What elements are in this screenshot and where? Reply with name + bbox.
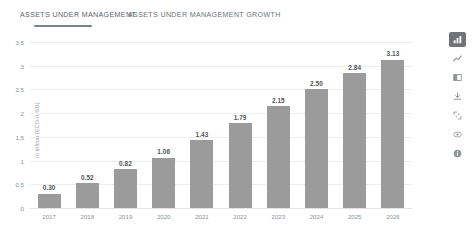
bar-series: 0.3020170.5220180.8220191.0620201.432021… <box>30 42 412 208</box>
bar[interactable] <box>114 169 137 208</box>
y-axis-tick-label: 1 <box>21 157 24 164</box>
y-axis-tick-label: 0.5 <box>15 181 24 188</box>
tab-bar: ASSETS UNDER MANAGEMENT ASSETS UNDER MAN… <box>0 0 474 30</box>
bar[interactable] <box>343 73 366 208</box>
bar-group[interactable]: 1.432021 <box>183 42 221 208</box>
bar-chart-icon[interactable] <box>449 32 466 47</box>
y-axis-tick-label: 3 <box>21 62 24 69</box>
bar-value-label: 1.79 <box>234 114 247 121</box>
y-axis-tick-label: 0 <box>21 205 24 212</box>
bar-group[interactable]: 2.502024 <box>297 42 335 208</box>
bar-value-label: 2.84 <box>348 64 361 71</box>
y-axis-tick-label: 2 <box>21 110 24 117</box>
bar[interactable] <box>76 183 99 208</box>
info-icon[interactable] <box>449 146 466 161</box>
table-icon[interactable] <box>449 70 466 85</box>
tab-assets-under-management[interactable]: ASSETS UNDER MANAGEMENT <box>20 11 136 19</box>
x-axis-tick-label: 2023 <box>272 213 286 220</box>
bar[interactable] <box>305 89 328 208</box>
bar-group[interactable]: 0.522018 <box>68 42 106 208</box>
active-tab-underline <box>34 25 92 27</box>
bar-value-label: 1.06 <box>157 148 170 155</box>
line-chart-icon[interactable] <box>449 51 466 66</box>
bar-value-label: 2.50 <box>310 80 323 87</box>
x-axis-tick-label: 2026 <box>386 213 400 220</box>
chart-container: in trillion (ECD-IUSD) 00.511.522.533.5 … <box>0 30 430 230</box>
bar-value-label: 3.13 <box>387 50 400 57</box>
bar-value-label: 0.30 <box>43 184 56 191</box>
bar-value-label: 0.82 <box>119 160 132 167</box>
bar-group[interactable]: 1.062020 <box>145 42 183 208</box>
x-axis-tick-label: 2025 <box>348 213 362 220</box>
eye-icon[interactable] <box>449 127 466 142</box>
y-axis-tick-label: 3.5 <box>15 39 24 46</box>
x-axis-tick-label: 2018 <box>81 213 95 220</box>
x-axis-tick-label: 2017 <box>42 213 56 220</box>
bar[interactable] <box>152 158 175 208</box>
tab-assets-under-management-growth[interactable]: ASSETS UNDER MANAGEMENT GROWTH <box>128 11 281 19</box>
y-axis-tick-label: 2.5 <box>15 86 24 93</box>
plot-area: 00.511.522.533.5 0.3020170.5220180.82201… <box>30 42 412 208</box>
x-axis-tick-label: 2020 <box>157 213 171 220</box>
bar-group[interactable]: 0.302017 <box>30 42 68 208</box>
bar[interactable] <box>229 123 252 208</box>
bar[interactable] <box>381 60 404 208</box>
gridline: 0 <box>30 208 412 209</box>
x-axis-tick-label: 2022 <box>233 213 247 220</box>
bar-group[interactable]: 2.842025 <box>336 42 374 208</box>
chart-toolbar <box>449 32 466 161</box>
bar-value-label: 0.52 <box>81 174 94 181</box>
bar-group[interactable]: 1.792022 <box>221 42 259 208</box>
download-icon[interactable] <box>449 89 466 104</box>
bar[interactable] <box>267 106 290 208</box>
expand-icon[interactable] <box>449 108 466 123</box>
bar-value-label: 2.15 <box>272 97 285 104</box>
bar-group[interactable]: 3.132026 <box>374 42 412 208</box>
x-axis-tick-label: 2019 <box>119 213 133 220</box>
bar-group[interactable]: 0.822019 <box>106 42 144 208</box>
x-axis-tick-label: 2021 <box>195 213 209 220</box>
bar-group[interactable]: 2.152023 <box>259 42 297 208</box>
chart-page: ASSETS UNDER MANAGEMENT ASSETS UNDER MAN… <box>0 0 474 239</box>
y-axis-tick-label: 1.5 <box>15 133 24 140</box>
bar-value-label: 1.43 <box>195 131 208 138</box>
bar[interactable] <box>38 194 61 208</box>
bar[interactable] <box>190 140 213 208</box>
x-axis-tick-label: 2024 <box>310 213 324 220</box>
